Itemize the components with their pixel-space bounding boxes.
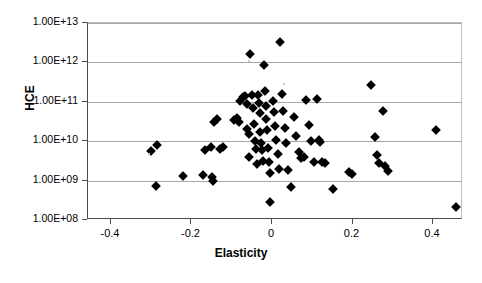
data-point (283, 165, 293, 175)
x-tick-mark (110, 219, 111, 224)
data-point (261, 114, 271, 124)
data-point (265, 168, 275, 178)
y-tick-label: 1.00E+12 (14, 55, 78, 66)
data-point (277, 89, 287, 99)
data-point (265, 197, 275, 207)
plot-area (87, 22, 462, 219)
data-point (278, 106, 288, 116)
gridline-y (88, 62, 461, 63)
data-point (301, 95, 311, 105)
data-point (304, 120, 314, 130)
scatter-chart-figure: HCE 1.00E+081.00E+091.00E+101.00E+111.00… (0, 0, 482, 283)
x-tick-mark (190, 219, 191, 224)
data-point (275, 37, 285, 47)
data-point (245, 49, 255, 59)
x-tick-label: 0.2 (329, 227, 375, 239)
data-point (328, 184, 338, 194)
data-point (269, 107, 279, 117)
data-point (451, 202, 461, 212)
gridline-y (88, 23, 461, 24)
x-tick-mark (352, 219, 353, 224)
data-point (379, 106, 389, 116)
y-tick-label: 1.00E+09 (14, 174, 78, 185)
y-tick-label: 1.00E+10 (14, 134, 78, 145)
data-point (273, 149, 283, 159)
x-axis-title: Elasticity (0, 246, 482, 260)
x-tick-mark (432, 219, 433, 224)
y-tick-mark (82, 219, 87, 220)
data-point (178, 171, 188, 181)
scan-speck (248, 60, 250, 62)
data-point (315, 137, 325, 147)
x-tick-label: -0.2 (167, 227, 213, 239)
y-tick-label: 1.00E+13 (14, 16, 78, 27)
data-point (366, 80, 376, 90)
gridline-y (88, 181, 461, 182)
data-point (431, 125, 441, 135)
y-tick-label: 1.00E+11 (14, 95, 78, 106)
scan-speck (283, 83, 285, 85)
data-point (198, 170, 208, 180)
data-point (291, 131, 301, 141)
data-point (282, 138, 292, 148)
data-point (289, 112, 299, 122)
y-tick-label: 1.00E+08 (14, 213, 78, 224)
data-point (151, 181, 161, 191)
scan-speck (148, 153, 150, 155)
x-tick-label: 0.4 (409, 227, 455, 239)
data-point (245, 152, 255, 162)
x-tick-label: -0.4 (87, 227, 133, 239)
data-point (280, 123, 290, 133)
data-point (286, 182, 296, 192)
x-tick-label: 0 (248, 227, 294, 239)
gridline-y (88, 220, 461, 221)
data-point (234, 117, 244, 127)
x-tick-mark (271, 219, 272, 224)
data-point (271, 135, 281, 145)
